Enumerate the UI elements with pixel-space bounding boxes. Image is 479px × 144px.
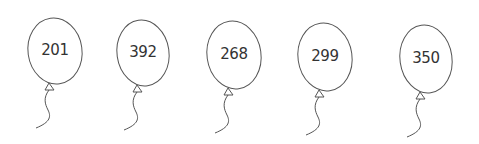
balloon-5 <box>396 22 457 137</box>
balloon-3-value: 268 <box>204 45 264 63</box>
balloon-string <box>124 92 138 130</box>
balloon-string <box>407 99 421 137</box>
balloon-2 <box>113 17 174 130</box>
balloon-string <box>215 95 229 133</box>
balloon-2-value: 392 <box>113 43 173 61</box>
balloon-4 <box>294 20 357 135</box>
balloon-4-value: 299 <box>295 47 355 65</box>
balloon-5-value: 350 <box>396 49 456 67</box>
balloon-string <box>36 90 50 128</box>
balloon-1 <box>24 15 87 128</box>
balloon-1-value: 201 <box>25 41 85 59</box>
balloon-3 <box>203 18 266 133</box>
balloon-knot-icon <box>416 92 425 99</box>
balloon-scene: 201 392 268 299 350 <box>0 0 479 144</box>
balloon-string <box>306 97 320 135</box>
balloons-drawing <box>0 0 479 144</box>
